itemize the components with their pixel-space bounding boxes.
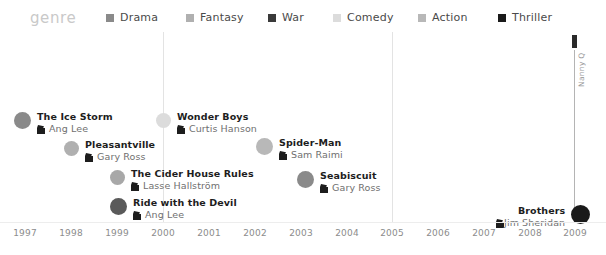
x-tick-1998: 1998	[59, 228, 83, 238]
point-title: Ride with the Devil	[133, 197, 237, 208]
chart-title: genre	[30, 9, 76, 27]
x-tick-1999: 1999	[105, 228, 129, 238]
point-dot	[256, 138, 273, 155]
legend-item-action[interactable]: Action	[418, 11, 468, 24]
legend-item-war[interactable]: War	[268, 11, 304, 24]
callout-label: Nanny Q	[577, 52, 586, 87]
legend-swatch-fantasy	[186, 14, 194, 22]
point-dot	[64, 141, 79, 156]
point-director: Curtis Hanson	[189, 124, 257, 134]
axis-rule	[0, 222, 606, 223]
callout-connector-line	[574, 50, 575, 208]
legend-label-war: War	[282, 11, 304, 24]
point-title: Brothers	[518, 205, 565, 216]
x-tick-2005: 2005	[380, 228, 404, 238]
legend-label-thriller: Thriller	[512, 11, 552, 24]
legend-label-comedy: Comedy	[347, 11, 394, 24]
data-point-ride-with-the-devil[interactable]: Ride with the Devil Ang Lee	[110, 192, 237, 221]
legend-item-drama[interactable]: Drama	[106, 11, 158, 24]
point-director: Lasse Hallström	[143, 181, 220, 191]
point-director: Gary Ross	[332, 183, 381, 193]
point-dot	[571, 205, 590, 224]
data-point-the-cider-house-rules[interactable]: The Cider House Rules Lasse Hallström	[110, 163, 254, 192]
director-icon	[131, 182, 139, 191]
point-director: Ang Lee	[145, 210, 184, 220]
point-title: Wonder Boys	[177, 111, 248, 122]
director-icon	[37, 125, 45, 134]
legend-item-comedy[interactable]: Comedy	[333, 11, 394, 24]
x-axis: 1997 1998 1999 2000 2001 2002 2003 2004 …	[0, 222, 606, 255]
director-icon	[279, 151, 287, 160]
x-tick-2007: 2007	[472, 228, 496, 238]
point-dot	[156, 113, 171, 128]
legend-label-fantasy: Fantasy	[200, 11, 244, 24]
data-point-pleasantville[interactable]: Pleasantville Gary Ross	[64, 134, 155, 163]
point-dot	[110, 170, 125, 185]
director-icon	[177, 125, 185, 134]
callout-marker-icon	[572, 35, 577, 48]
legend-label-action: Action	[432, 11, 468, 24]
legend-swatch-war	[268, 14, 276, 22]
data-point-spider-man[interactable]: Spider-Man Sam Raimi	[256, 132, 343, 161]
legend-swatch-action	[418, 14, 426, 22]
x-tick-1997: 1997	[13, 228, 37, 238]
x-tick-2000: 2000	[151, 228, 175, 238]
point-dot	[14, 112, 31, 129]
legend-item-fantasy[interactable]: Fantasy	[186, 11, 244, 24]
x-tick-2009: 2009	[563, 228, 587, 238]
director-icon	[85, 153, 93, 162]
point-title: Spider-Man	[279, 137, 341, 148]
point-title: The Cider House Rules	[131, 168, 254, 179]
point-title: Seabiscuit	[320, 170, 377, 181]
point-dot	[297, 171, 314, 188]
x-tick-2006: 2006	[426, 228, 450, 238]
director-icon	[320, 184, 328, 193]
point-director: Ang Lee	[49, 124, 88, 134]
point-director: Sam Raimi	[291, 150, 343, 160]
point-dot	[110, 198, 127, 215]
x-tick-2003: 2003	[289, 228, 313, 238]
data-point-wonder-boys[interactable]: Wonder Boys Curtis Hanson	[156, 106, 257, 135]
data-point-the-ice-storm[interactable]: The Ice Storm Ang Lee	[14, 106, 113, 135]
plot-area: Nanny Q The Ice Storm Ang Lee Pleasantvi…	[0, 32, 606, 222]
x-tick-2002: 2002	[243, 228, 267, 238]
legend-item-thriller[interactable]: Thriller	[498, 11, 552, 24]
data-point-seabiscuit[interactable]: Seabiscuit Gary Ross	[297, 165, 381, 194]
legend-swatch-drama	[106, 14, 114, 22]
legend-swatch-thriller	[498, 14, 506, 22]
genre-timeline-chart: genre Drama Fantasy War Comedy Action Th…	[0, 0, 606, 255]
point-director: Gary Ross	[97, 152, 146, 162]
point-title: The Ice Storm	[37, 111, 113, 122]
x-tick-2004: 2004	[335, 228, 359, 238]
point-title: Pleasantville	[85, 139, 155, 150]
x-tick-2008: 2008	[518, 228, 542, 238]
legend-label-drama: Drama	[120, 11, 158, 24]
chart-legend: genre Drama Fantasy War Comedy Action Th…	[0, 0, 606, 32]
x-tick-2001: 2001	[197, 228, 221, 238]
director-icon	[133, 211, 141, 220]
gridline-2005	[392, 32, 393, 222]
legend-swatch-comedy	[333, 14, 341, 22]
